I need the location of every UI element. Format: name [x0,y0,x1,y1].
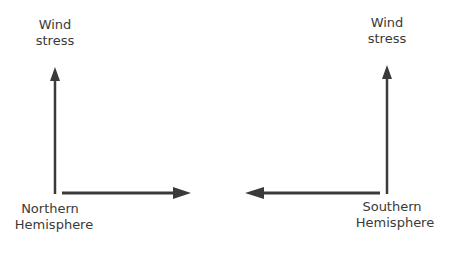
wind-stress-label-south-line1: Wind [362,15,412,31]
northern-hemisphere-arrows [50,67,191,199]
wind-stress-arrow-north-head [50,67,60,81]
transport-arrow-north-head [173,187,191,199]
wind-stress-label-south-line2: stress [362,31,412,47]
southern-hemisphere-label: Southern Hemisphere [345,199,445,231]
northern-hemisphere-label: Northern Hemisphere [4,201,104,233]
southern-hemisphere-arrows [245,65,392,199]
transport-arrow-south-head [245,187,264,199]
northern-hemisphere-label-line2: Hemisphere [4,217,104,233]
wind-stress-label-north: Wind stress [30,17,80,49]
wind-stress-label-south: Wind stress [362,15,412,47]
wind-stress-label-north-line2: stress [30,33,80,49]
wind-stress-arrow-south-head [382,65,392,79]
southern-hemisphere-label-line1: Southern [339,199,445,215]
southern-hemisphere-label-line2: Hemisphere [345,215,445,231]
northern-hemisphere-label-line1: Northern [0,201,104,217]
wind-stress-label-north-line1: Wind [30,17,80,33]
